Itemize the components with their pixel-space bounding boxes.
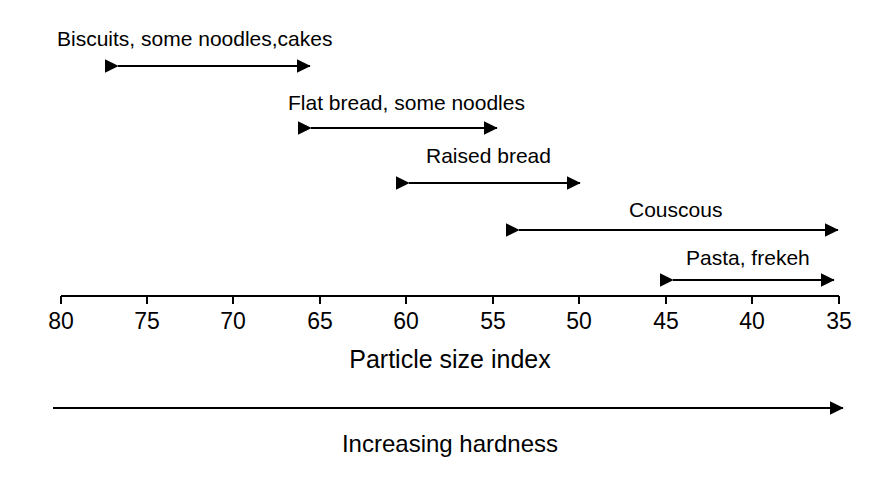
increasing-hardness-label: Increasing hardness [342, 432, 558, 456]
chart-vector-layer [0, 0, 885, 483]
band-label-pasta-frekeh: Pasta, frekeh [686, 247, 810, 268]
x-tick-label-55: 55 [480, 310, 506, 333]
particle-size-index-figure: Biscuits, some noodles,cakes Flat bread,… [0, 0, 885, 483]
band-label-biscuits: Biscuits, some noodles,cakes [57, 28, 332, 49]
x-tick-label-80: 80 [48, 310, 74, 333]
x-axis-title: Particle size index [349, 347, 550, 372]
band-label-flatbread: Flat bread, some noodles [288, 92, 525, 113]
x-tick-label-40: 40 [739, 310, 765, 333]
band-label-raised-bread: Raised bread [426, 145, 551, 166]
x-tick-label-75: 75 [134, 310, 160, 333]
x-tick-label-60: 60 [393, 310, 419, 333]
x-axis [61, 296, 839, 304]
band-label-couscous: Couscous [629, 199, 722, 220]
x-tick-label-65: 65 [307, 310, 333, 333]
x-tick-label-70: 70 [220, 310, 246, 333]
x-tick-label-45: 45 [653, 310, 679, 333]
x-tick-label-50: 50 [566, 310, 592, 333]
x-tick-label-35: 35 [826, 310, 852, 333]
